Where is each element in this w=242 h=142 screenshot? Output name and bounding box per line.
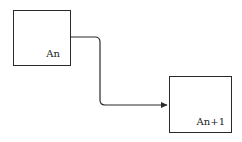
diagram-canvas: An An+1	[0, 0, 242, 142]
node-box-an: An	[13, 10, 71, 66]
node-box-an-plus-1: An+1	[169, 76, 232, 133]
node-label-an: An	[46, 48, 60, 59]
node-label-an-plus-1: An+1	[197, 116, 225, 127]
